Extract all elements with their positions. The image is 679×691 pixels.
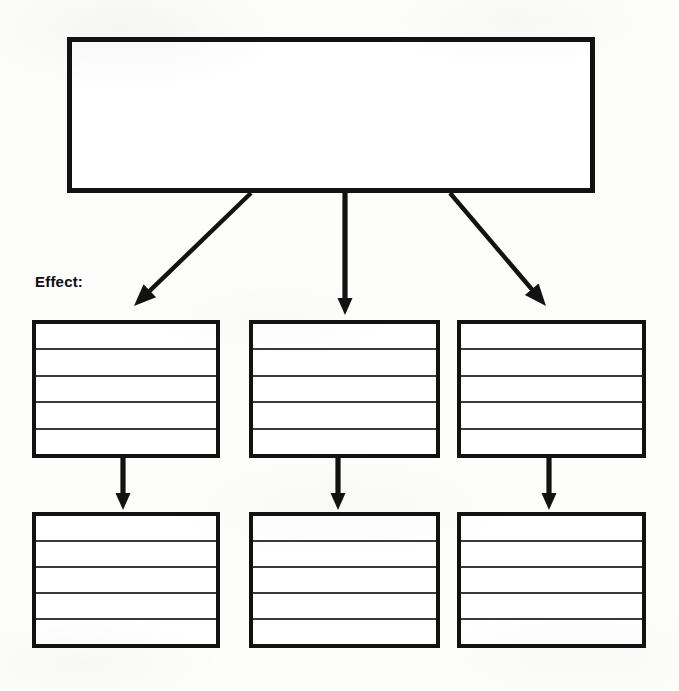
effect-row1-to-row2-col2-arrow — [331, 458, 346, 510]
worksheet-canvas: Cause Effect: — [0, 0, 679, 691]
writing-line[interactable] — [36, 620, 216, 644]
effect-box[interactable] — [249, 320, 440, 458]
writing-line[interactable] — [461, 568, 642, 594]
writing-line[interactable] — [461, 542, 642, 568]
arrow-head — [542, 493, 557, 510]
writing-line[interactable] — [253, 542, 436, 568]
writing-line[interactable] — [253, 568, 436, 594]
effect-label: Effect: — [35, 273, 83, 290]
writing-line[interactable] — [36, 430, 216, 454]
writing-line[interactable] — [36, 594, 216, 620]
arrow-head — [134, 284, 156, 306]
cause-box[interactable] — [67, 37, 595, 193]
writing-line[interactable] — [253, 350, 436, 376]
effect-box[interactable] — [32, 512, 220, 648]
effect-box[interactable] — [457, 512, 646, 648]
writing-line[interactable] — [36, 377, 216, 403]
effect-row1-to-row2-col3-arrow — [542, 458, 557, 510]
writing-line[interactable] — [36, 568, 216, 594]
writing-line[interactable] — [461, 403, 642, 429]
writing-line[interactable] — [461, 377, 642, 403]
writing-line[interactable] — [36, 403, 216, 429]
writing-line[interactable] — [36, 350, 216, 376]
effect-row1-to-row2-col1-arrow — [116, 458, 131, 510]
writing-line[interactable] — [461, 324, 642, 350]
arrow-shaft — [141, 191, 252, 299]
cause-to-effect-middle-arrow — [338, 193, 353, 315]
writing-line[interactable] — [36, 324, 216, 350]
cause-to-effect-left-arrow — [134, 191, 253, 306]
writing-line[interactable] — [36, 516, 216, 542]
writing-line[interactable] — [253, 594, 436, 620]
writing-line[interactable] — [253, 620, 436, 644]
writing-line[interactable] — [253, 377, 436, 403]
writing-line[interactable] — [461, 430, 642, 454]
effect-box[interactable] — [32, 320, 220, 458]
arrow-head — [338, 298, 353, 315]
writing-line[interactable] — [253, 403, 436, 429]
arrow-shaft — [448, 192, 540, 299]
effect-box[interactable] — [457, 320, 646, 458]
arrow-head — [116, 493, 131, 510]
writing-line[interactable] — [461, 516, 642, 542]
cause-to-effect-right-arrow — [448, 192, 546, 306]
writing-line[interactable] — [253, 324, 436, 350]
writing-line[interactable] — [461, 350, 642, 376]
arrow-head — [525, 283, 546, 306]
writing-line[interactable] — [253, 516, 436, 542]
writing-line[interactable] — [253, 430, 436, 454]
writing-line[interactable] — [36, 542, 216, 568]
arrow-shaft — [120, 458, 125, 501]
writing-line[interactable] — [461, 620, 642, 644]
writing-line[interactable] — [461, 594, 642, 620]
effect-box[interactable] — [249, 512, 440, 648]
arrow-shaft — [335, 458, 340, 501]
arrow-shaft — [342, 193, 347, 306]
arrow-head — [331, 493, 346, 510]
arrow-shaft — [546, 458, 551, 501]
